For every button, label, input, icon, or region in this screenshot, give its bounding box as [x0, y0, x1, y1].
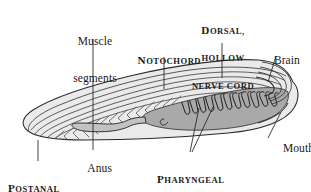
label-notochord-rest: otochord	[146, 56, 201, 66]
chordate-anatomy-figure: Muscle segments Dorsal, hollow nerve cor…	[0, 0, 311, 192]
label-muscle-segments-line2: segments	[62, 72, 128, 84]
label-notochord-cap: N	[138, 54, 147, 66]
label-notochord: Notochord	[124, 45, 204, 76]
label-nerve-cord-line3: nerve cord	[180, 82, 266, 91]
label-muscle-segments: Muscle segments	[62, 10, 128, 109]
label-mouth-text: Mouth	[283, 142, 311, 154]
label-nerve-cord-cap: D	[201, 24, 210, 36]
label-postanal-rest: ostanal	[15, 184, 59, 192]
label-pharyngeal-line1: Pharyngeal	[157, 173, 247, 185]
label-pharyngeal-rest: haryngeal	[164, 175, 224, 185]
label-brain: Brain	[258, 42, 304, 79]
label-postanal-tail: Postanal tail	[8, 163, 88, 192]
label-brain-text: Brain	[274, 54, 300, 66]
label-anus-text: Anus	[87, 162, 112, 174]
label-pharyngeal-slits: Pharyngeal slits	[157, 154, 247, 192]
label-postanal-line1: Postanal	[8, 182, 88, 192]
label-mouth: Mouth	[271, 130, 311, 167]
label-muscle-segments-line1: Muscle	[62, 35, 128, 47]
label-nerve-cord-line1: Dorsal,	[180, 24, 266, 36]
label-nerve-cord-rest: orsal,	[210, 26, 245, 36]
